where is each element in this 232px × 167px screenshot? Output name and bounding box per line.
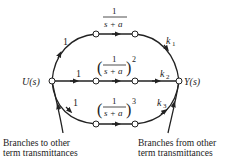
middle-in-gain: 1 [76,68,81,79]
input-node-label: U(s) [22,76,40,88]
svg-text:1: 1 [112,54,117,64]
right-caption: Branches from other term transmittances [138,138,216,158]
svg-text:(: ( [97,59,102,77]
middle-exponent: 2 [132,55,136,64]
k2-label: k [160,68,165,79]
svg-text:1: 1 [112,96,117,106]
svg-text:(: ( [97,101,102,119]
svg-text:2: 2 [166,73,170,81]
bottom-exponent: 3 [132,97,136,106]
svg-text:): ) [126,101,131,119]
svg-text:): ) [126,59,131,77]
k1-label: k [166,35,171,46]
svg-text:3: 3 [163,102,167,110]
svg-text:1: 1 [172,40,176,48]
output-node-label: Y(s) [184,76,201,88]
left-caption: Branches to other term transmittances [3,138,78,158]
top-tf-den: s + a [104,19,123,29]
signal-flow-graph: U(s) Y(s) 1 1 1 1 s + a ( 1 s + a ) 2 ( … [0,0,232,167]
svg-text:s + a: s + a [104,108,123,118]
top-in-gain: 1 [63,36,68,47]
svg-text:s + a: s + a [104,66,123,76]
top-tf-num: 1 [112,6,117,16]
bottom-in-gain: 1 [73,97,78,108]
k3-label: k [157,97,162,108]
